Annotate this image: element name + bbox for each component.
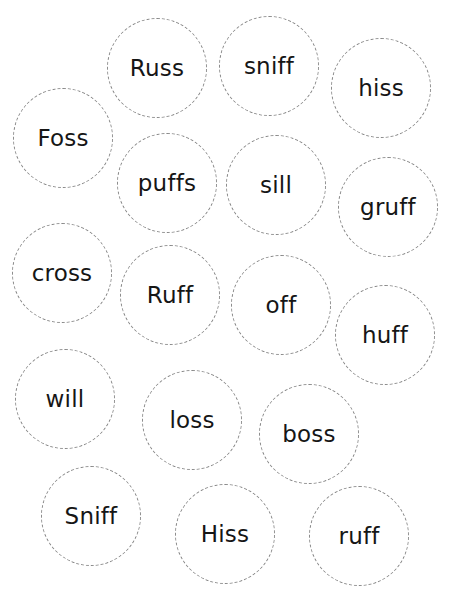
word-bubble-sniff: sniff: [219, 16, 319, 116]
word-label: ruff: [338, 525, 379, 548]
word-bubble-huff: huff: [335, 285, 435, 385]
word-bubble-off: off: [231, 255, 331, 355]
word-label: loss: [169, 409, 214, 432]
word-bubble-worksheet: Russ sniff hiss Foss puffs sill gruff cr…: [0, 0, 449, 593]
word-label: Ruff: [147, 284, 194, 307]
word-bubble-ruff-capital: Ruff: [120, 245, 220, 345]
word-bubble-hiss: hiss: [331, 38, 431, 138]
word-bubble-loss: loss: [142, 370, 242, 470]
word-label: huff: [362, 324, 408, 347]
word-label: off: [266, 294, 297, 317]
word-bubble-russ: Russ: [107, 18, 207, 118]
word-label: Foss: [37, 127, 88, 150]
word-bubble-ruff: ruff: [309, 486, 409, 586]
word-bubble-sniff-capital: Sniff: [41, 466, 141, 566]
word-bubble-will: will: [15, 349, 115, 449]
word-label: will: [46, 388, 85, 411]
word-label: Sniff: [65, 505, 118, 528]
word-bubble-gruff: gruff: [338, 157, 438, 257]
word-label: gruff: [360, 196, 416, 219]
word-label: Russ: [130, 57, 184, 80]
word-bubble-foss: Foss: [13, 88, 113, 188]
word-label: puffs: [138, 172, 196, 195]
word-bubble-hiss-capital: Hiss: [175, 484, 275, 584]
word-label: sill: [260, 174, 292, 197]
word-label: cross: [32, 262, 93, 285]
word-label: Hiss: [201, 523, 249, 546]
word-bubble-cross: cross: [12, 223, 112, 323]
word-bubble-boss: boss: [259, 384, 359, 484]
word-bubble-sill: sill: [226, 135, 326, 235]
word-label: boss: [282, 423, 335, 446]
word-label: sniff: [244, 55, 294, 78]
word-label: hiss: [358, 77, 404, 100]
word-bubble-puffs: puffs: [117, 133, 217, 233]
